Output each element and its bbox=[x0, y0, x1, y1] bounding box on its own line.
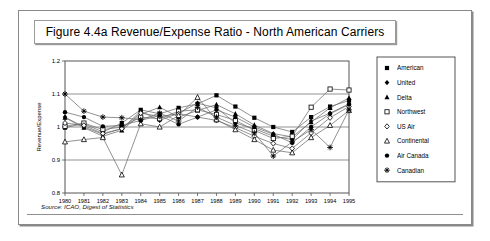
data-point bbox=[385, 110, 389, 114]
x-tick-label: 1993 bbox=[305, 198, 317, 204]
data-point bbox=[347, 88, 351, 92]
data-point bbox=[119, 172, 124, 177]
data-point bbox=[252, 125, 256, 129]
x-tick-label: 1992 bbox=[286, 198, 298, 204]
y-tick-label: 1.2 bbox=[52, 58, 61, 64]
data-point bbox=[271, 132, 275, 136]
data-point bbox=[176, 118, 182, 124]
legend-box bbox=[377, 57, 455, 182]
data-point bbox=[63, 110, 67, 114]
data-point bbox=[328, 112, 332, 116]
data-point bbox=[347, 102, 351, 106]
page-title: Figure 4.4a Revenue/Expense Ratio - Nort… bbox=[46, 25, 385, 39]
data-point bbox=[346, 95, 351, 100]
legend-label: Air Canada bbox=[397, 152, 429, 159]
y-tick-label: 1.1 bbox=[52, 91, 61, 97]
series-line bbox=[65, 97, 349, 175]
legend-label: Delta bbox=[397, 94, 412, 101]
data-point bbox=[214, 108, 218, 112]
legend-label: American bbox=[397, 64, 424, 71]
data-point bbox=[214, 114, 220, 120]
source-note: Source: ICAO, Digest of Statistics bbox=[41, 203, 134, 210]
data-point bbox=[214, 93, 218, 97]
legend-label: Northwest bbox=[397, 108, 426, 115]
y-tick-label: 0.8 bbox=[52, 190, 61, 196]
x-tick-label: 1995 bbox=[343, 198, 355, 204]
series-line bbox=[65, 107, 349, 149]
data-point bbox=[195, 104, 201, 110]
data-point bbox=[251, 130, 257, 136]
data-point bbox=[233, 104, 237, 108]
data-point bbox=[346, 107, 352, 113]
source-divider bbox=[27, 214, 463, 215]
x-tick-label: 1988 bbox=[210, 198, 222, 204]
data-point bbox=[271, 136, 275, 140]
x-tick-label: 1991 bbox=[267, 198, 279, 204]
x-tick-label: 1994 bbox=[324, 198, 336, 204]
data-point bbox=[195, 95, 200, 100]
data-point bbox=[101, 124, 105, 128]
x-tick-label: 1986 bbox=[172, 198, 184, 204]
data-point bbox=[385, 153, 389, 157]
data-point bbox=[119, 115, 125, 121]
data-point bbox=[233, 115, 237, 119]
data-point bbox=[214, 102, 219, 107]
x-tick-label: 1987 bbox=[191, 198, 203, 204]
data-point bbox=[309, 135, 314, 140]
data-point bbox=[157, 104, 162, 109]
x-tick-label: 1984 bbox=[135, 198, 147, 204]
legend-label: Canadian bbox=[397, 167, 424, 174]
data-point bbox=[271, 141, 276, 146]
data-point bbox=[328, 123, 333, 128]
y-tick-label: 0.9 bbox=[52, 157, 61, 163]
data-point bbox=[82, 115, 86, 119]
data-point bbox=[120, 123, 124, 127]
data-point bbox=[271, 125, 275, 129]
chart-container: 0.80.911.11.2Revenue/Expense198019811982… bbox=[19, 43, 471, 208]
legend-label: Continental bbox=[397, 137, 429, 144]
data-point bbox=[100, 114, 106, 120]
data-point bbox=[309, 105, 313, 109]
figure-title-box: Figure 4.4a Revenue/Expense Ratio - Nort… bbox=[34, 20, 396, 44]
data-point bbox=[233, 123, 239, 129]
data-point bbox=[157, 110, 163, 116]
legend-label: US Air bbox=[397, 123, 415, 130]
data-point bbox=[385, 66, 389, 70]
legend-label: United bbox=[397, 79, 416, 86]
data-point bbox=[252, 137, 257, 142]
revenue-expense-line-chart: 0.80.911.11.2Revenue/Expense198019811982… bbox=[19, 43, 471, 208]
data-point bbox=[270, 153, 276, 159]
x-tick-label: 1985 bbox=[153, 198, 165, 204]
figure-card: Figure 4.4a Revenue/Expense Ratio - Nort… bbox=[18, 10, 472, 225]
x-tick-label: 1989 bbox=[229, 198, 241, 204]
data-point bbox=[195, 115, 199, 119]
y-tick-label: 1 bbox=[57, 124, 61, 130]
y-axis-title: Revenue/Expense bbox=[36, 102, 42, 152]
series-canadian bbox=[62, 91, 352, 159]
data-point bbox=[271, 147, 276, 152]
x-tick-label: 1990 bbox=[248, 198, 260, 204]
data-point bbox=[328, 87, 332, 91]
data-point bbox=[252, 116, 256, 120]
chart-legend: AmericanUnitedDeltaNorthwestUS AirContin… bbox=[377, 57, 455, 182]
data-point bbox=[62, 91, 68, 97]
data-point bbox=[290, 134, 294, 138]
